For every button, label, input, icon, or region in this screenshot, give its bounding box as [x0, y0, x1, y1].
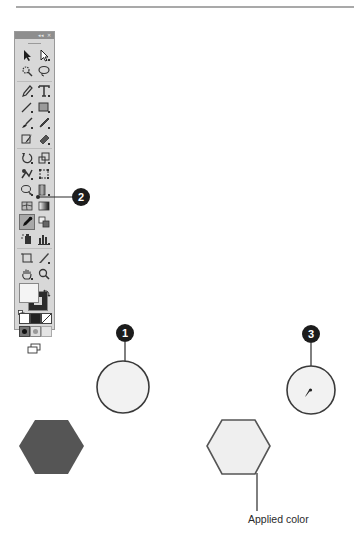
leader-dot	[36, 195, 40, 199]
original-hexagon[interactable]	[19, 420, 84, 474]
applied-color-label: Applied color	[248, 513, 309, 525]
artwork-canvas	[0, 0, 354, 551]
callout-3: 3	[302, 325, 320, 343]
fill-swatch[interactable]	[19, 283, 39, 303]
callout-1: 1	[116, 324, 134, 342]
source-circle[interactable]	[97, 361, 149, 413]
callout-2: 2	[72, 188, 90, 206]
applied-hexagon[interactable]	[207, 420, 270, 474]
